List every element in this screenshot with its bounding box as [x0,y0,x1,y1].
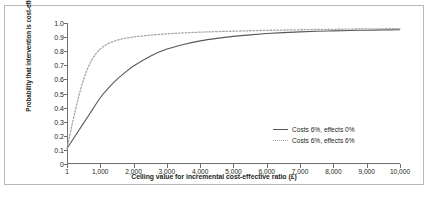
dotted-line-swatch-icon [273,137,288,144]
x-tick-mark [267,164,268,168]
x-tick-mark [67,164,68,168]
x-tick-mark [400,164,401,168]
x-tick-mark [167,164,168,168]
y-tick-label: 0.2 [54,132,64,139]
x-tick-mark [134,164,135,168]
legend-label: Costs 6%, effects 6% [292,137,355,145]
x-tick-mark [367,164,368,168]
chart-legend: Costs 6%, effects 0% Costs 6%, effects 6… [273,124,393,146]
y-tick-label: 0.6 [54,76,64,83]
y-axis-title: Probability that intervention is cost-ef… [25,0,32,113]
figure-frame: Probability that intervention is cost-ef… [4,5,424,185]
x-tick-mark [300,164,301,168]
x-tick-mark [100,164,101,168]
legend-label: Costs 6%, effects 0% [292,126,355,134]
y-tick-label: 0.3 [54,118,64,125]
solid-line-swatch-icon [273,126,288,133]
y-tick-label: 0.4 [54,104,64,111]
x-tick-mark [333,164,334,168]
y-tick-label: 0.7 [54,62,64,69]
y-tick-label: 1.0 [54,20,64,27]
y-tick-label: 0.5 [54,90,64,97]
x-axis-title: Ceiling value for incremental cost-effec… [5,173,423,180]
y-tick-label: 0.1 [54,146,64,153]
y-tick-label: 0.8 [54,48,64,55]
legend-item-costs6-effects6: Costs 6%, effects 6% [273,135,393,146]
y-tick-label: 0.9 [54,34,64,41]
legend-item-costs6-effects0: Costs 6%, effects 0% [273,124,393,135]
x-tick-mark [233,164,234,168]
x-tick-mark [200,164,201,168]
